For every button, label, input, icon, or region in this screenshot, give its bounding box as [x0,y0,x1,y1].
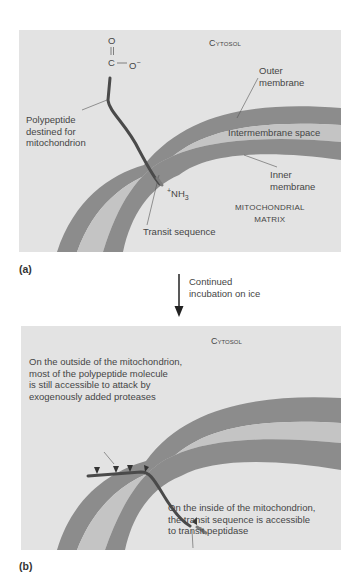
carboxyl-oxygen-minus: O− [129,57,140,72]
outside-note: On the outside of the mitochondrion, mos… [29,356,182,402]
panel-b-label: (b) [19,560,32,572]
down-arrow-icon [173,274,185,318]
carboxyl-carbon: C [108,57,115,69]
panel-b: Cytosol On the outside of the mitochondr… [21,326,341,550]
polypeptide-label: Polypeptide destined for mitochondrion [26,114,86,149]
transit-sequence-label: Transit sequence [143,226,216,238]
nh3-label: +NH3 [167,185,189,204]
matrix-label: Mitochondrial Matrix [235,202,305,225]
cytosol-label-b: Cytosol [211,336,242,348]
intermembrane-space-label: Intermembrane space [228,127,320,139]
panel-a: Cytosol O C O− Polypeptide destined for … [19,30,341,252]
outer-membrane-label: Outer membrane [259,65,304,88]
inner-membrane-label: Inner membrane [270,169,315,192]
inside-note: On the inside of the mitochondrion, the … [168,502,315,537]
cytosol-label-a: Cytosol [209,38,241,50]
panel-a-label: (a) [19,263,32,275]
carboxyl-oxygen-top: O [108,35,115,47]
transition-text: Continued incubation on ice [189,276,260,300]
